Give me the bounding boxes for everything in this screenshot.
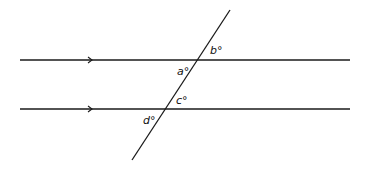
angle-label-c: c° — [176, 94, 188, 107]
parallel-lines-diagram: a° b° c° d° — [0, 0, 366, 170]
transversal-line — [132, 10, 230, 160]
angle-label-b: b° — [210, 44, 222, 57]
angle-label-a: a° — [177, 65, 189, 78]
angle-label-d: d° — [143, 114, 155, 127]
